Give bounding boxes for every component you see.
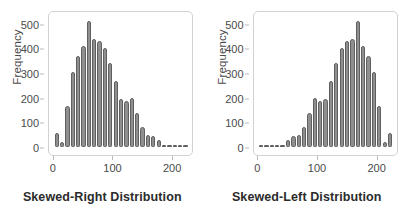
x-tick-label: 100 bbox=[308, 162, 326, 174]
histogram-bar bbox=[264, 145, 268, 147]
x-axis-label: Skewed-Left Distribution bbox=[205, 190, 409, 204]
histogram-bar bbox=[124, 101, 128, 147]
y-tick-label: 200 bbox=[21, 93, 39, 105]
histogram-bar bbox=[361, 46, 365, 147]
x-tick-mark bbox=[112, 156, 113, 160]
y-tick-label: 500 bbox=[225, 19, 243, 31]
histogram-bar bbox=[167, 145, 171, 147]
histogram-bar bbox=[270, 145, 274, 147]
histogram-figure: Frequency 0100200300400500 0100200 Skewe… bbox=[0, 0, 409, 220]
histogram-bar bbox=[65, 106, 69, 147]
x-axis-ticks: 0100200 bbox=[48, 156, 193, 178]
y-tick-mark bbox=[245, 49, 249, 50]
histogram-bar bbox=[291, 136, 295, 147]
histogram-bar bbox=[135, 113, 139, 147]
histogram-bar bbox=[372, 72, 376, 147]
histogram-bar bbox=[146, 135, 150, 147]
histogram-bar bbox=[81, 46, 85, 147]
y-tick-mark bbox=[245, 74, 249, 75]
x-tick-mark bbox=[317, 156, 318, 160]
y-tick-label: 200 bbox=[225, 93, 243, 105]
histogram-bar bbox=[173, 145, 177, 147]
histogram-bar bbox=[130, 98, 134, 147]
x-axis-label: Skewed-Right Distribution bbox=[0, 190, 205, 204]
y-tick-mark bbox=[245, 148, 249, 149]
histogram-bar bbox=[356, 21, 360, 147]
histogram-bar bbox=[318, 101, 322, 147]
histogram-bar bbox=[87, 21, 91, 147]
histogram-bar bbox=[323, 99, 327, 147]
histogram-bar bbox=[259, 145, 263, 147]
y-tick-mark bbox=[40, 24, 44, 25]
y-tick-mark bbox=[245, 24, 249, 25]
bar-series bbox=[49, 16, 192, 147]
histogram-bar bbox=[55, 133, 59, 147]
x-tick-label: 0 bbox=[50, 162, 56, 174]
histogram-bar bbox=[302, 127, 306, 147]
y-tick-label: 300 bbox=[21, 68, 39, 80]
y-tick-label: 400 bbox=[21, 43, 39, 55]
histogram-bar bbox=[157, 140, 161, 147]
histogram-bar bbox=[178, 145, 182, 147]
y-axis-ticks: 0100200300400500 bbox=[14, 11, 44, 156]
x-tick-label: 200 bbox=[367, 162, 385, 174]
x-tick-mark bbox=[172, 156, 173, 160]
panel-skewed-right: Frequency 0100200300400500 0100200 Skewe… bbox=[0, 0, 205, 220]
y-tick-label: 0 bbox=[237, 142, 243, 154]
histogram-bar bbox=[329, 81, 333, 147]
y-tick-label: 100 bbox=[225, 117, 243, 129]
histogram-bar bbox=[307, 113, 311, 147]
y-tick-mark bbox=[40, 148, 44, 149]
histogram-bar bbox=[313, 98, 317, 147]
histogram-bar bbox=[119, 99, 123, 147]
histogram-bar bbox=[334, 63, 338, 147]
histogram-bar bbox=[275, 145, 279, 147]
histogram-bar bbox=[183, 145, 187, 147]
y-tick-mark bbox=[40, 123, 44, 124]
histogram-bar bbox=[366, 56, 370, 147]
plot-area bbox=[253, 11, 398, 156]
y-tick-mark bbox=[40, 74, 44, 75]
histogram-bar bbox=[140, 127, 144, 147]
x-axis-ticks: 0100200 bbox=[253, 156, 398, 178]
histogram-bar bbox=[345, 41, 349, 147]
histogram-bar bbox=[297, 135, 301, 147]
y-tick-mark bbox=[245, 123, 249, 124]
histogram-bar bbox=[280, 145, 284, 147]
histogram-bar bbox=[97, 41, 101, 147]
x-tick-mark bbox=[377, 156, 378, 160]
histogram-bar bbox=[151, 136, 155, 147]
y-tick-mark bbox=[40, 49, 44, 50]
histogram-bar bbox=[108, 63, 112, 147]
y-tick-label: 0 bbox=[33, 142, 39, 154]
histogram-bar bbox=[350, 39, 354, 147]
x-tick-mark bbox=[257, 156, 258, 160]
x-tick-mark bbox=[53, 156, 54, 160]
y-tick-label: 400 bbox=[225, 43, 243, 55]
y-tick-label: 100 bbox=[21, 117, 39, 129]
histogram-bar bbox=[92, 39, 96, 147]
bar-series bbox=[254, 16, 397, 147]
histogram-bar bbox=[60, 142, 64, 147]
histogram-bar bbox=[383, 142, 387, 147]
histogram-bar bbox=[103, 48, 107, 147]
histogram-bar bbox=[76, 56, 80, 147]
histogram-bar bbox=[286, 140, 290, 147]
y-tick-label: 300 bbox=[225, 68, 243, 80]
x-tick-label: 100 bbox=[103, 162, 121, 174]
x-tick-label: 200 bbox=[163, 162, 181, 174]
panel-skewed-left: Frequency 0100200300400500 0100200 Skewe… bbox=[205, 0, 409, 220]
histogram-bar bbox=[388, 133, 392, 147]
y-tick-mark bbox=[245, 98, 249, 99]
histogram-bar bbox=[114, 81, 118, 147]
x-tick-label: 0 bbox=[254, 162, 260, 174]
y-tick-label: 500 bbox=[21, 19, 39, 31]
histogram-bar bbox=[162, 145, 166, 147]
histogram-bar bbox=[377, 106, 381, 147]
y-tick-mark bbox=[40, 98, 44, 99]
histogram-bar bbox=[71, 72, 75, 147]
histogram-bar bbox=[340, 48, 344, 147]
plot-area bbox=[48, 11, 193, 156]
y-axis-ticks: 0100200300400500 bbox=[219, 11, 249, 156]
